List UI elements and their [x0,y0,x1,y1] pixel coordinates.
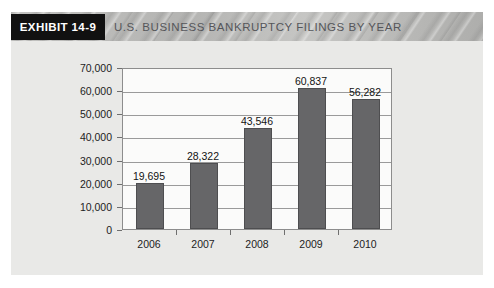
x-axis-tick [230,230,231,235]
bar [136,183,164,229]
exhibit-header: EXHIBIT 14-9 U.S. BUSINESS BANKRUPTCY FI… [11,12,483,41]
x-axis-tick-label: 2010 [353,238,376,250]
y-axis-tick-label: 50,000 [11,108,112,120]
x-axis-tick [284,230,285,235]
bar [244,128,272,229]
x-axis-tick [338,230,339,235]
y-axis-tick-label: 30,000 [11,155,112,167]
y-axis-tick-label: 0 [11,224,112,236]
x-axis-tick-label: 2008 [245,238,268,250]
y-axis-tick-label: 10,000 [11,201,112,213]
bar-value-label: 56,282 [349,86,381,98]
exhibit-title: U.S. BUSINESS BANKRUPTCY FILINGS BY YEAR [114,14,402,40]
bar-value-label: 60,837 [295,75,327,87]
y-axis-tick-label: 60,000 [11,85,112,97]
x-axis-tick-label: 2006 [137,238,160,250]
y-axis-tick-label: 20,000 [11,178,112,190]
x-axis-tick-label: 2007 [191,238,214,250]
bar-value-label: 19,695 [133,170,165,182]
exhibit-badge: EXHIBIT 14-9 [11,14,105,40]
y-axis-tick-label: 70,000 [11,62,112,74]
bar-chart: 010,00020,00030,00040,00050,00060,00070,… [11,41,483,275]
y-axis-tick [117,230,122,231]
bar [298,88,326,229]
bar-value-label: 43,546 [241,115,273,127]
x-axis-tick-label: 2009 [299,238,322,250]
figure-body: 010,00020,00030,00040,00050,00060,00070,… [11,41,483,275]
y-axis-tick-label: 40,000 [11,131,112,143]
bar [190,163,218,229]
bar [352,99,380,229]
x-axis-tick [176,230,177,235]
exhibit-figure: EXHIBIT 14-9 U.S. BUSINESS BANKRUPTCY FI… [11,12,483,275]
bar-value-label: 28,322 [187,150,219,162]
